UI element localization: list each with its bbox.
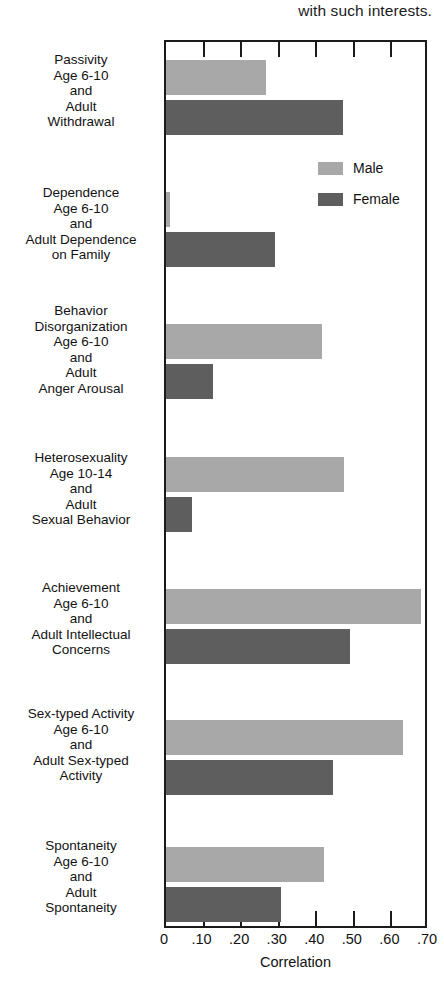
category-label-line: Withdrawal: [0, 114, 162, 130]
x-tick-label-6: .60: [379, 930, 399, 948]
category-label-line: Disorganization: [0, 319, 162, 335]
category-label-line: and: [0, 83, 162, 99]
category-label-line: Spontaneity: [0, 838, 162, 854]
bar-female-group-7: [166, 887, 281, 922]
x-tick-label-3: .30: [267, 930, 287, 948]
bar-male-group-7: [166, 847, 324, 882]
category-label-line: Concerns: [0, 642, 162, 658]
x-tick-label-7: .70: [417, 930, 437, 948]
category-label-line: Spontaneity: [0, 900, 162, 916]
legend-swatch-female: [318, 193, 343, 206]
bar-female-group-2: [166, 232, 275, 267]
category-label-column: PassivityAge 6-10andAdultWithdrawalDepen…: [0, 0, 164, 981]
tick-mark-bottom: [390, 911, 392, 926]
category-label-line: Dependence: [0, 185, 162, 201]
tick-mark-top: [240, 42, 242, 57]
bar-female-group-6: [166, 760, 333, 795]
category-label-line: Heterosexuality: [0, 450, 162, 466]
x-tick-label-1: .10: [191, 930, 211, 948]
legend-label-female: Female: [353, 192, 400, 206]
bar-male-group-2: [166, 192, 170, 227]
category-label-6: Sex-typed ActivityAge 6-10andAdult Sex-t…: [0, 706, 162, 784]
x-tick-label-4: .40: [304, 930, 324, 948]
category-label-line: Adult: [0, 99, 162, 115]
legend-item-male: Male: [318, 155, 428, 181]
category-label-line: on Family: [0, 247, 162, 263]
category-label-line: Adult Dependence: [0, 232, 162, 248]
category-label-line: and: [0, 869, 162, 885]
category-label-line: Age 6-10: [0, 854, 162, 870]
category-label-line: Activity: [0, 768, 162, 784]
category-label-line: Age 6-10: [0, 68, 162, 84]
category-label-line: Achievement: [0, 580, 162, 596]
category-label-2: DependenceAge 6-10andAdult Dependenceon …: [0, 185, 162, 263]
tick-mark-top: [203, 42, 205, 57]
bar-female-group-5: [166, 629, 350, 664]
x-tick-label-5: .50: [342, 930, 362, 948]
bar-male-group-3: [166, 324, 322, 359]
bar-female-group-1: [166, 100, 343, 135]
category-label-line: Age 10-14: [0, 466, 162, 482]
category-label-line: and: [0, 216, 162, 232]
bar-male-group-6: [166, 720, 403, 755]
bar-male-group-4: [166, 457, 344, 492]
tick-mark-top: [390, 42, 392, 57]
x-axis-tick-labels: 0.10.20.30.40.50.60.70: [164, 930, 427, 954]
chart-legend: MaleFemale: [318, 155, 428, 217]
category-label-5: AchievementAge 6-10andAdult Intellectual…: [0, 580, 162, 658]
tick-mark-top: [278, 42, 280, 57]
category-label-line: Adult: [0, 365, 162, 381]
bar-male-group-5: [166, 589, 421, 624]
category-label-line: Adult: [0, 885, 162, 901]
bar-male-group-1: [166, 60, 266, 95]
tick-mark-top: [353, 42, 355, 57]
category-label-line: Adult Intellectual: [0, 627, 162, 643]
category-label-line: and: [0, 611, 162, 627]
x-tick-label-0: 0: [160, 930, 168, 948]
x-tick-label-2: .20: [229, 930, 249, 948]
category-label-line: Sex-typed Activity: [0, 706, 162, 722]
bar-female-group-4: [166, 497, 192, 532]
tick-mark-bottom: [315, 911, 317, 926]
category-label-line: and: [0, 350, 162, 366]
category-label-line: and: [0, 737, 162, 753]
category-label-line: Adult Sex-typed: [0, 753, 162, 769]
tick-mark-bottom: [353, 911, 355, 926]
category-label-3: BehaviorDisorganizationAge 6-10andAdultA…: [0, 303, 162, 396]
correlation-bar-chart: PassivityAge 6-10andAdultWithdrawalDepen…: [0, 0, 444, 981]
bar-female-group-3: [166, 364, 213, 399]
category-label-7: SpontaneityAge 6-10andAdultSpontaneity: [0, 838, 162, 916]
category-label-line: and: [0, 481, 162, 497]
category-label-line: Anger Arousal: [0, 381, 162, 397]
category-label-line: Age 6-10: [0, 722, 162, 738]
category-label-4: HeterosexualityAge 10-14andAdultSexual B…: [0, 450, 162, 528]
legend-label-male: Male: [353, 161, 383, 175]
tick-mark-top: [315, 42, 317, 57]
x-axis-title: Correlation: [164, 953, 427, 971]
category-label-line: Age 6-10: [0, 201, 162, 217]
legend-swatch-male: [318, 162, 343, 175]
category-label-line: Sexual Behavior: [0, 512, 162, 528]
category-label-line: Age 6-10: [0, 596, 162, 612]
legend-item-female: Female: [318, 186, 428, 212]
category-label-line: Adult: [0, 497, 162, 513]
category-label-line: Behavior: [0, 303, 162, 319]
category-label-line: Passivity: [0, 52, 162, 68]
category-label-line: Age 6-10: [0, 334, 162, 350]
category-label-1: PassivityAge 6-10andAdultWithdrawal: [0, 52, 162, 130]
